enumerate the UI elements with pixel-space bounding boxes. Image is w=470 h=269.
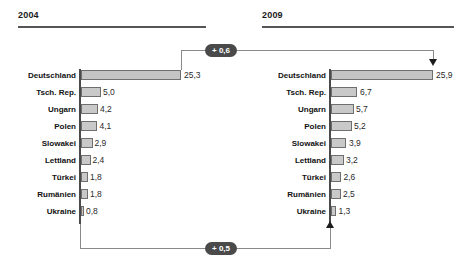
bar-value-label: 3,9 <box>349 137 361 150</box>
bar-value-label: 1,3 <box>339 205 351 218</box>
row-label: Tsch. Rep. <box>252 86 326 99</box>
chart-canvas: 2004 2009 Deutschland 25,3 Tsch. Rep. 5,… <box>0 0 470 269</box>
bar-row: Slowakei 3,9 <box>250 137 470 150</box>
row-label: Türkei <box>2 171 76 184</box>
chart-panel-2004: Deutschland 25,3 Tsch. Rep. 5,0 Ungarn 4… <box>0 0 235 269</box>
arrow-down-icon <box>429 59 437 66</box>
bar-shape <box>331 172 341 182</box>
bar-value-label: 1,8 <box>90 171 102 184</box>
row-label: Ungarn <box>252 103 326 116</box>
bar-shape <box>81 87 101 97</box>
bar-row: Deutschland 25,3 <box>0 69 235 82</box>
bar-value-label: 2,4 <box>93 154 105 167</box>
bar-value-label: 3,2 <box>346 154 358 167</box>
bar-row: Rumänien 2,5 <box>250 188 470 201</box>
bar-shape <box>331 70 433 80</box>
bar-value-label: 25,3 <box>184 69 201 82</box>
row-label: Ukraine <box>252 205 326 218</box>
bar-value-label: 1,8 <box>90 188 102 201</box>
bar-row: Polen 4,1 <box>0 120 235 133</box>
bar-shape <box>81 206 84 216</box>
bar-row: Polen 5,2 <box>250 120 470 133</box>
row-label: Polen <box>2 120 76 133</box>
bottom-connector-vertical-start <box>80 224 81 248</box>
row-label: Polen <box>252 120 326 133</box>
bar-shape <box>81 121 97 131</box>
bar-row: Ungarn 4,2 <box>0 103 235 116</box>
bar-value-label: 5,2 <box>354 120 366 133</box>
bar-shape <box>81 172 88 182</box>
row-label: Rumänien <box>2 188 76 201</box>
bar-row: Ukraine 1,3 <box>250 205 470 218</box>
bar-shape <box>81 70 181 80</box>
bar-shape <box>81 155 91 165</box>
row-label: Slowakei <box>2 137 76 150</box>
bar-shape <box>331 138 346 148</box>
bar-row: Deutschland 25,9 <box>250 69 470 82</box>
row-label: Lettland <box>2 154 76 167</box>
row-label: Tsch. Rep. <box>2 86 76 99</box>
bottom-connector-vertical-end <box>330 228 331 248</box>
bar-shape <box>331 206 336 216</box>
bar-shape <box>331 189 341 199</box>
delta-badge-top: + 0,6 <box>205 44 237 57</box>
delta-badge-bottom: + 0,5 <box>205 242 237 255</box>
arrow-up-icon <box>326 221 334 228</box>
bar-row: Slowakei 2,9 <box>0 137 235 150</box>
bar-value-label: 5,0 <box>103 86 115 99</box>
chart-panel-2009: Deutschland 25,9 Tsch. Rep. 6,7 Ungarn 5… <box>250 0 470 269</box>
row-label: Deutschland <box>2 69 76 82</box>
bar-value-label: 5,7 <box>356 103 368 116</box>
row-label: Slowakei <box>252 137 326 150</box>
bar-shape <box>331 121 352 131</box>
bar-row: Türkei 1,8 <box>0 171 235 184</box>
bar-shape <box>331 104 354 114</box>
bar-value-label: 6,7 <box>360 86 372 99</box>
bar-shape <box>81 104 98 114</box>
row-label: Ukraine <box>2 205 76 218</box>
bar-row: Lettland 2,4 <box>0 154 235 167</box>
bar-value-label: 2,5 <box>343 188 355 201</box>
bar-row: Türkei 2,6 <box>250 171 470 184</box>
bar-shape <box>81 189 88 199</box>
top-connector-vertical-start <box>181 50 182 70</box>
row-label: Lettland <box>252 154 326 167</box>
bar-value-label: 4,2 <box>100 103 112 116</box>
row-label: Rumänien <box>252 188 326 201</box>
bar-row: Ungarn 5,7 <box>250 103 470 116</box>
bar-shape <box>331 87 357 97</box>
row-label: Deutschland <box>252 69 326 82</box>
bar-row: Lettland 3,2 <box>250 154 470 167</box>
bar-value-label: 25,9 <box>436 69 453 82</box>
row-label: Ungarn <box>2 103 76 116</box>
bar-shape <box>81 138 93 148</box>
row-label: Türkei <box>252 171 326 184</box>
bar-value-label: 4,1 <box>100 120 112 133</box>
bar-value-label: 2,9 <box>95 137 107 150</box>
bar-row: Rumänien 1,8 <box>0 188 235 201</box>
bar-value-label: 0,8 <box>86 205 98 218</box>
bar-value-label: 2,6 <box>344 171 356 184</box>
bar-row: Tsch. Rep. 5,0 <box>0 86 235 99</box>
bar-row: Tsch. Rep. 6,7 <box>250 86 470 99</box>
bar-shape <box>331 155 344 165</box>
bar-row: Ukraine 0,8 <box>0 205 235 218</box>
